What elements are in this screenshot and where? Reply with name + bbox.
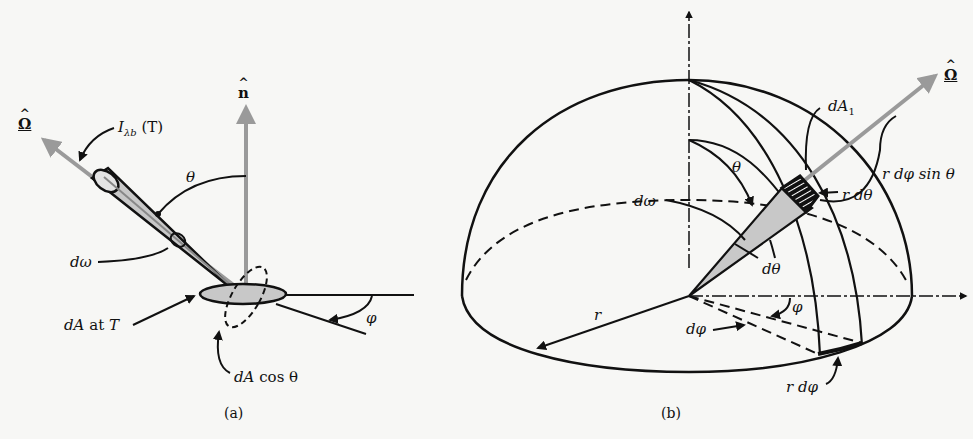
d-theta-label-b: dθ	[762, 262, 781, 277]
theta-label-a: θ	[186, 170, 195, 185]
phi-label-a: φ	[366, 311, 377, 326]
omega-hat-label-a: Ω	[18, 117, 31, 132]
intensity-label: Iλb (T)	[118, 120, 163, 138]
r-dphi-label: r dφ	[786, 380, 818, 395]
figure-canvas: Ω n Iλb (T) θ dω dA at T dA cos θ φ (a) …	[0, 0, 973, 439]
r-dtheta-label: r dθ	[842, 188, 873, 203]
dA-at-T-label: dA at T	[64, 318, 119, 333]
d-omega-label-a: dω	[70, 255, 92, 270]
base-back-dashed	[466, 200, 908, 284]
radius-line	[538, 296, 689, 348]
r-label: r	[594, 308, 601, 323]
dA1-label: dA1	[828, 99, 855, 117]
omega-hat-label-b: Ω	[944, 68, 957, 83]
r-dphi-sin-theta-label: r dφ sin θ	[882, 167, 955, 182]
dA-cos-theta-label: dA cos θ	[234, 370, 298, 385]
phi-label-b: φ	[792, 300, 803, 315]
dA-ellipse	[200, 284, 286, 304]
n-hat-label: n	[238, 86, 249, 101]
caption-b: (b)	[661, 405, 681, 421]
diagram-svg	[0, 0, 973, 439]
panel-b	[462, 12, 966, 384]
d-omega-label-b: dω	[634, 194, 656, 209]
caption-a: (a)	[224, 405, 243, 421]
d-phi-label: dφ	[686, 322, 706, 337]
theta-label-b: θ	[732, 160, 741, 175]
